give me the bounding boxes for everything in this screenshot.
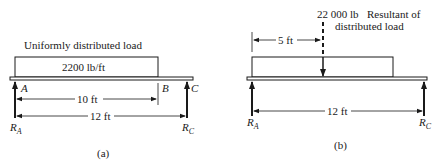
rc-label: RC [418, 116, 432, 131]
load-title: Uniformly distributed load [24, 39, 142, 51]
resultant-value: 22 000 lb [317, 8, 359, 20]
figure-b: 22 000 lb Resultant of distributed load … [246, 8, 432, 152]
beam [247, 77, 427, 80]
resultant-desc-line1: Resultant of [367, 8, 421, 20]
point-b-label: B [162, 82, 169, 94]
ra-label: RA [9, 121, 22, 136]
ra-label: RA [246, 116, 259, 131]
dim-12ft-label: 12 ft [90, 110, 110, 122]
dim-5ft-label: 5 ft [278, 34, 293, 46]
beam [10, 77, 193, 80]
point-a-label: A [20, 82, 28, 94]
caption-b: (b) [334, 139, 347, 152]
rc-label: RC [181, 121, 195, 136]
point-c-label: C [191, 82, 199, 94]
beam-diagrams: Uniformly distributed load 2200 lb/ft A … [0, 0, 440, 167]
dim-10ft-label: 10 ft [77, 93, 97, 105]
figure-a: Uniformly distributed load 2200 lb/ft A … [9, 39, 199, 160]
load-intensity: 2200 lb/ft [62, 61, 105, 73]
caption-a: (a) [97, 147, 110, 160]
resultant-desc-line2: distributed load [335, 20, 404, 32]
dim-12ft-label: 12 ft [327, 105, 347, 117]
